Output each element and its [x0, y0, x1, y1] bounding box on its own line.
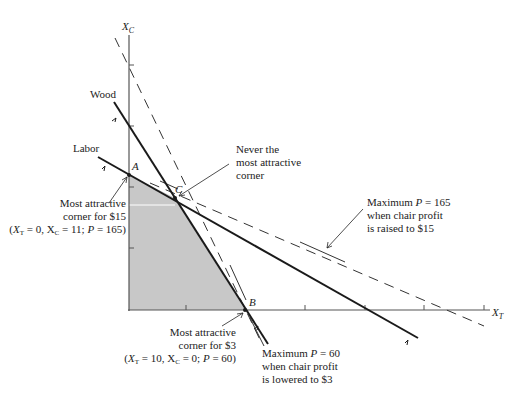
svg-text:Most attractive: Most attractive — [170, 326, 236, 338]
corner-3-annotation: Most attractive corner for $3 (XT = 10, … — [124, 326, 236, 366]
svg-text:is raised to $15: is raised to $15 — [367, 222, 434, 234]
y-axis-label: XC — [121, 20, 135, 35]
svg-text:corner: corner — [236, 169, 264, 181]
lp-graph: XC XT Wood Labor A C B Never the most at… — [0, 0, 520, 404]
never-attractive-annotation: Never the most attractive corner — [236, 143, 301, 181]
labor-label: Labor — [73, 142, 100, 154]
feasible-region — [129, 175, 245, 310]
max-60-annotation: Maximum P = 60 when chair profit is lowe… — [262, 347, 341, 385]
wood-label: Wood — [90, 88, 117, 100]
x-axis-label: XT — [491, 306, 504, 321]
corner-c-label: C — [175, 183, 183, 195]
svg-text:when chair profit: when chair profit — [367, 209, 443, 221]
svg-text:corner for $3: corner for $3 — [179, 339, 237, 351]
svg-text:Maximum P = 60: Maximum P = 60 — [262, 347, 341, 359]
svg-text:most attractive: most attractive — [236, 156, 301, 168]
svg-text:when chair profit: when chair profit — [262, 360, 338, 372]
svg-text:Most attractive: Most attractive — [60, 197, 126, 209]
corner-15-annotation: Most attractive corner for $15 (XT = 0, … — [9, 197, 126, 237]
svg-text:(XT = 10, XC = 0; P = 60): (XT = 10, XC = 0; P = 60) — [124, 352, 236, 366]
svg-text:is lowered to $3: is lowered to $3 — [262, 373, 333, 385]
svg-text:Maximum P = 165: Maximum P = 165 — [367, 196, 451, 208]
svg-text:corner for $15: corner for $15 — [63, 210, 126, 222]
max-165-annotation: Maximum P = 165 when chair profit is rai… — [367, 196, 451, 234]
svg-text:(XT = 0, XC = 11; P = 165): (XT = 0, XC = 11; P = 165) — [9, 223, 126, 237]
svg-text:Never the: Never the — [236, 143, 279, 155]
corner-b-label: B — [249, 296, 256, 308]
corner-a-label: A — [131, 160, 139, 172]
